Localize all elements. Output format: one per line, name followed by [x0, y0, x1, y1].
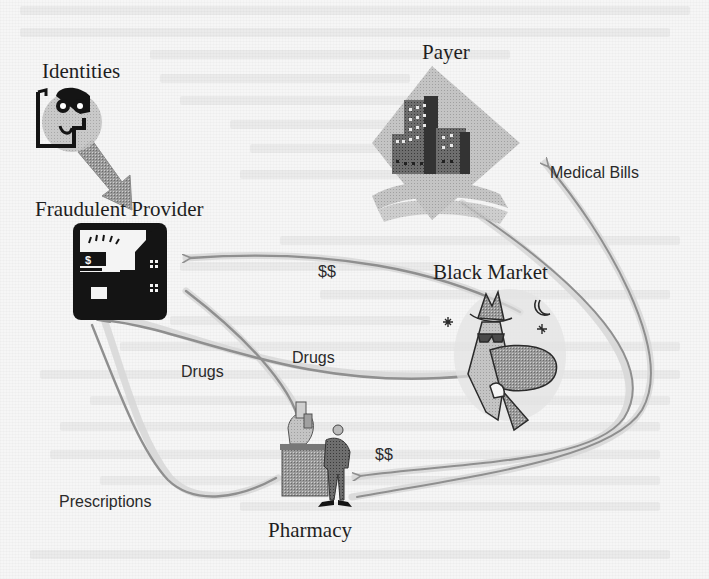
edge-label-money-bottom: $$	[375, 447, 393, 463]
edge-label-prescriptions: Prescriptions	[59, 494, 151, 510]
pharmacist-counter-icon	[280, 402, 352, 507]
provider-building-icon: $	[73, 223, 167, 320]
edge-label-money-top: $$	[318, 264, 336, 280]
node-label-identities: Identities	[42, 61, 120, 82]
node-label-pharmacy: Pharmacy	[268, 520, 352, 541]
node-label-black-market: Black Market	[433, 262, 548, 283]
svg-text:$: $	[85, 254, 91, 266]
edge-label-medical-bills: Medical Bills	[550, 165, 639, 181]
office-buildings-icon	[372, 66, 520, 224]
node-label-payer: Payer	[422, 42, 470, 63]
edge-label-drugs-left: Drugs	[181, 364, 224, 380]
edge-label-drugs-right: Drugs	[292, 350, 335, 366]
identity-card-icon	[38, 88, 102, 152]
node-label-fraudulent-provider: Fraudulent Provider	[35, 199, 204, 220]
shady-dealer-icon	[443, 289, 566, 430]
